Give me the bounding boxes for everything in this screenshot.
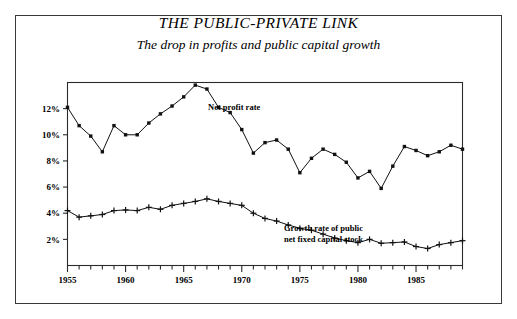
data-point-marker xyxy=(182,95,185,98)
y-tick-label: 12% xyxy=(42,104,60,114)
data-point-marker xyxy=(170,104,173,107)
data-point-marker xyxy=(391,164,394,167)
y-tick-labels: 2%4%6%8%10%12% xyxy=(42,104,60,245)
y-tick-label: 10% xyxy=(42,130,60,140)
data-point-marker xyxy=(205,87,208,90)
data-point-marker xyxy=(124,133,127,136)
x-tick-labels: 1955196019651970197519801985 xyxy=(59,275,426,285)
data-point-marker xyxy=(461,147,464,150)
x-tick-label: 1965 xyxy=(175,275,194,285)
annotation-capital-growth-line1: Growth rate of public xyxy=(284,223,363,233)
data-point-marker xyxy=(240,128,243,131)
data-point-marker xyxy=(379,187,382,190)
data-point-marker xyxy=(321,147,324,150)
data-point-marker xyxy=(252,151,255,154)
x-tick-label: 1955 xyxy=(59,275,78,285)
data-point-marker xyxy=(101,150,104,153)
data-point-marker xyxy=(263,141,266,144)
x-tick-label: 1970 xyxy=(233,275,252,285)
y-ticks-group xyxy=(63,109,68,240)
data-point-marker xyxy=(159,112,162,115)
x-tick-label: 1960 xyxy=(117,275,136,285)
data-point-marker xyxy=(345,161,348,164)
annotation-capital-growth-line2: net fixed capital stock xyxy=(284,234,363,244)
data-point-marker xyxy=(112,124,115,127)
data-point-marker xyxy=(333,153,336,156)
series-public-capital-growth xyxy=(65,196,466,252)
y-tick-label: 2% xyxy=(47,235,61,245)
data-point-marker xyxy=(414,149,417,152)
data-point-marker xyxy=(136,133,139,136)
x-ticks-group xyxy=(68,266,463,273)
data-point-marker xyxy=(403,145,406,148)
data-point-marker xyxy=(77,124,80,127)
data-point-marker xyxy=(310,157,313,160)
data-point-marker xyxy=(368,170,371,173)
chart-svg: 2%4%6%8%10%12% 1955196019651970197519801… xyxy=(0,0,517,319)
series-net-profit-rate xyxy=(66,83,464,190)
data-point-marker xyxy=(449,144,452,147)
y-tick-label: 6% xyxy=(47,182,61,192)
y-tick-label: 4% xyxy=(47,208,61,218)
y-tick-label: 8% xyxy=(47,156,61,166)
data-point-marker xyxy=(147,121,150,124)
data-point-marker xyxy=(298,171,301,174)
x-tick-label: 1975 xyxy=(291,275,310,285)
axes-group xyxy=(68,83,463,266)
data-point-marker xyxy=(194,83,197,86)
series-line xyxy=(68,85,463,188)
data-point-marker xyxy=(438,150,441,153)
x-tick-label: 1985 xyxy=(407,275,426,285)
data-point-marker xyxy=(287,147,290,150)
data-point-marker xyxy=(426,154,429,157)
annotation-net-profit-rate: Net profit rate xyxy=(208,102,260,112)
x-tick-label: 1980 xyxy=(349,275,368,285)
data-point-marker xyxy=(66,106,69,109)
plot-area: 2%4%6%8%10%12% 1955196019651970197519801… xyxy=(0,0,517,319)
series-line xyxy=(68,199,463,249)
data-point-marker xyxy=(89,134,92,137)
data-point-marker xyxy=(275,138,278,141)
data-point-marker xyxy=(356,176,359,179)
series-annotations: Net profit rateGrowth rate of publicnet … xyxy=(208,102,363,244)
